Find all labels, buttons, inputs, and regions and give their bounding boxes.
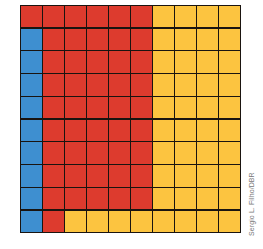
grid-cell-yellow bbox=[109, 211, 130, 232]
grid-cell-red bbox=[43, 51, 64, 72]
grid-cell-red bbox=[131, 74, 152, 95]
grid-cell-yellow bbox=[131, 211, 152, 232]
grid-cell-yellow bbox=[197, 6, 218, 27]
grid-cell-red bbox=[43, 188, 64, 209]
grid-cell-red bbox=[65, 51, 86, 72]
grid-cell-yellow bbox=[175, 211, 196, 232]
grid-cell-yellow bbox=[219, 188, 240, 209]
grid-cell-blue bbox=[21, 29, 42, 50]
grid-cell-yellow bbox=[153, 29, 174, 50]
grid-cell-red bbox=[65, 74, 86, 95]
grid-cell-red bbox=[109, 142, 130, 163]
grid-cell-yellow bbox=[219, 120, 240, 141]
grid-cell-yellow bbox=[197, 188, 218, 209]
grid-cell-red bbox=[109, 29, 130, 50]
grid-cell-yellow bbox=[197, 165, 218, 186]
grid-cell-red bbox=[109, 74, 130, 95]
grid-cell-red bbox=[131, 6, 152, 27]
grid-cell-yellow bbox=[219, 51, 240, 72]
grid-cell-red bbox=[43, 74, 64, 95]
grid-cell-yellow bbox=[153, 120, 174, 141]
grid-cell-yellow bbox=[175, 6, 196, 27]
grid-cell-red bbox=[131, 142, 152, 163]
grid-cell-yellow bbox=[197, 211, 218, 232]
grid-cell-red bbox=[109, 51, 130, 72]
grid-cell-red bbox=[65, 120, 86, 141]
grid-cell-red bbox=[43, 211, 64, 232]
grid-cell-yellow bbox=[175, 142, 196, 163]
grid-cell-red bbox=[65, 29, 86, 50]
grid-cell-yellow bbox=[219, 29, 240, 50]
grid-cell-yellow bbox=[197, 51, 218, 72]
grid-cell-yellow bbox=[65, 211, 86, 232]
grid-cell-red bbox=[109, 97, 130, 118]
grid-cell-red bbox=[87, 74, 108, 95]
grid-cell-blue bbox=[21, 51, 42, 72]
grid-cell-red bbox=[131, 120, 152, 141]
grid-cell-yellow bbox=[87, 211, 108, 232]
grid-cell-red bbox=[65, 97, 86, 118]
grid-cell-red bbox=[65, 165, 86, 186]
grid-cell-red bbox=[109, 120, 130, 141]
grid-cell-yellow bbox=[219, 6, 240, 27]
grid-cell-red bbox=[43, 120, 64, 141]
grid-cell-red bbox=[87, 142, 108, 163]
grid-cell-yellow bbox=[175, 120, 196, 141]
grid-cell-red bbox=[109, 165, 130, 186]
grid-cell-red bbox=[131, 29, 152, 50]
grid-cell-yellow bbox=[175, 97, 196, 118]
grid-cell-blue bbox=[21, 211, 42, 232]
grid-cell-yellow bbox=[153, 51, 174, 72]
grid-cell-yellow bbox=[219, 97, 240, 118]
grid-cell-red bbox=[87, 29, 108, 50]
grid-cell-yellow bbox=[219, 165, 240, 186]
grid-cell-red bbox=[131, 165, 152, 186]
grid-cell-red bbox=[87, 120, 108, 141]
grid-cell-yellow bbox=[175, 29, 196, 50]
grid-cell-red bbox=[43, 97, 64, 118]
grid-cell-yellow bbox=[197, 97, 218, 118]
grid-cell-yellow bbox=[197, 29, 218, 50]
grid-cell-yellow bbox=[175, 165, 196, 186]
grid-cell-yellow bbox=[197, 142, 218, 163]
grid-cell-red bbox=[87, 188, 108, 209]
grid-cell-yellow bbox=[153, 188, 174, 209]
grid-cell-red bbox=[131, 97, 152, 118]
grid-cell-blue bbox=[21, 188, 42, 209]
grid-cell-yellow bbox=[153, 165, 174, 186]
grid-cell-yellow bbox=[153, 142, 174, 163]
grid-cell-blue bbox=[21, 142, 42, 163]
grid-cell-red bbox=[87, 6, 108, 27]
grid-cell-red bbox=[109, 188, 130, 209]
grid-cell-blue bbox=[21, 165, 42, 186]
grid-cell-yellow bbox=[197, 74, 218, 95]
grid-cell-yellow bbox=[175, 188, 196, 209]
grid-cell-red bbox=[109, 6, 130, 27]
grid-cell-blue bbox=[21, 74, 42, 95]
grid-cell-yellow bbox=[153, 74, 174, 95]
grid-cell-yellow bbox=[153, 211, 174, 232]
grid-cell-yellow bbox=[175, 74, 196, 95]
photo-credit: Sergio L. Filho/DBR bbox=[248, 172, 255, 236]
grid-cell-blue bbox=[21, 120, 42, 141]
grid-cell-red bbox=[43, 29, 64, 50]
grid-cell-yellow bbox=[175, 51, 196, 72]
grid-cell-red bbox=[87, 51, 108, 72]
grid-cell-red bbox=[43, 165, 64, 186]
grid-cell-red bbox=[43, 6, 64, 27]
grid-cell-yellow bbox=[219, 74, 240, 95]
grid-cell-red bbox=[21, 6, 42, 27]
grid-cell-yellow bbox=[219, 211, 240, 232]
hundred-square-grid bbox=[20, 5, 241, 233]
grid-cell-yellow bbox=[197, 120, 218, 141]
grid-cell-red bbox=[131, 51, 152, 72]
grid-cell-red bbox=[65, 6, 86, 27]
grid-cell-red bbox=[87, 97, 108, 118]
grid-cell-red bbox=[87, 165, 108, 186]
grid-cell-yellow bbox=[153, 6, 174, 27]
grid-cell-blue bbox=[21, 97, 42, 118]
grid-cell-red bbox=[65, 142, 86, 163]
grid-cell-yellow bbox=[219, 142, 240, 163]
grid-cell-yellow bbox=[153, 97, 174, 118]
grid-cell-red bbox=[43, 142, 64, 163]
